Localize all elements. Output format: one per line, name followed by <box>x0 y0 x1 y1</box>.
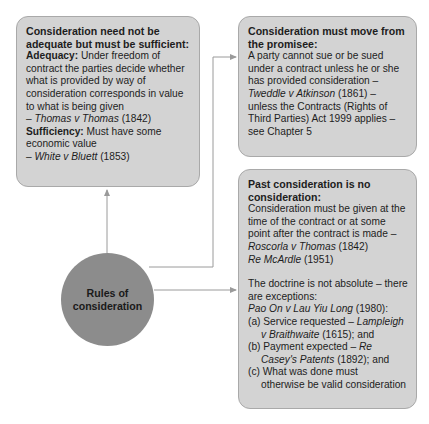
adequacy-line4: consideration corresponds in value <box>26 88 193 101</box>
adequacy-sufficiency-box: Consideration need not be adequate but m… <box>16 16 200 187</box>
adequacy-line5: to what is being given <box>26 101 193 114</box>
move-from-promisee-box: Consideration must move from the promise… <box>238 16 417 157</box>
paragraph-gap <box>248 266 410 278</box>
exception-a-line1: (a) Service requested – Lampleigh <box>248 316 410 329</box>
box2-title-line2: the promisee: <box>248 38 410 51</box>
box1-title-line1: Consideration need not be <box>26 25 193 38</box>
sufficiency-label: Sufficiency: <box>26 126 84 137</box>
box3-para2-line2: are exceptions: <box>248 291 410 304</box>
box2-line3: has provided consideration – <box>248 75 410 88</box>
box3-line1: Consideration must be given at the <box>248 203 410 216</box>
hub-label-line2: consideration <box>73 300 142 313</box>
sufficiency-line2: economic value <box>26 138 193 151</box>
box2-case: Tweddle v Atkinson (1861) – <box>248 88 410 101</box>
adequacy-line3: what is provided by way of <box>26 75 193 88</box>
exception-b-line2: Casey's Patents (1892); and <box>248 354 410 367</box>
sufficiency-line1: Sufficiency: Must have some <box>26 126 193 139</box>
adequacy-case: – Thomas v Thomas (1842) <box>26 113 193 126</box>
box3-line2: time of the contract or at some <box>248 216 410 229</box>
box3-title-line1: Past consideration is no <box>248 178 410 191</box>
box2-line6: Third Parties) Act 1999 applies – <box>248 113 410 126</box>
box3-para2-line1: The doctrine is not absolute – there <box>248 278 410 291</box>
adequacy-line2: contract the parties decide whether <box>26 63 193 76</box>
case-name: White v Bluett <box>35 151 98 162</box>
box3-title-line2: consideration: <box>248 191 410 204</box>
box2-line5: unless the Contracts (Rights of <box>248 101 410 114</box>
sufficiency-case: – White v Bluett (1853) <box>26 151 193 164</box>
rules-of-consideration-hub: Rules of consideration <box>61 253 154 346</box>
case-name: Pao On v Lau Yiu Long <box>248 303 353 314</box>
past-consideration-box: Past consideration is no consideration: … <box>238 169 417 409</box>
case-name: Tweddle v Atkinson <box>248 88 335 99</box>
case-name: Thomas v Thomas <box>35 113 119 124</box>
box2-line1: A party cannot sue or be sued <box>248 50 410 63</box>
exception-c-line1: (c) What was done must <box>248 366 410 379</box>
box2-line2: under a contract unless he or she <box>248 63 410 76</box>
adequacy-line1: Adequacy: Under freedom of <box>26 50 193 63</box>
box2-line7: see Chapter 5 <box>248 126 410 139</box>
exception-c-line2: otherwise be valid consideration <box>248 379 410 392</box>
box3-line3: point after the contract is made – <box>248 228 410 241</box>
box3-case2: Re McArdle (1951) <box>248 254 410 267</box>
box3-case1: Roscorla v Thomas (1842) <box>248 241 410 254</box>
box2-title-line1: Consideration must move from <box>248 25 410 38</box>
exception-a-line2: v Braithwaite (1615); and <box>248 329 410 342</box>
box3-case3: Pao On v Lau Yiu Long (1980): <box>248 303 410 316</box>
adequacy-label: Adequacy: <box>26 50 78 61</box>
exception-b-line1: (b) Payment expected – Re <box>248 341 410 354</box>
box1-title-line2: adequate but must be sufficient: <box>26 38 193 51</box>
case-name: Re McArdle <box>248 254 301 265</box>
case-name: Roscorla v Thomas <box>248 241 336 252</box>
hub-label-line1: Rules of <box>73 287 142 300</box>
